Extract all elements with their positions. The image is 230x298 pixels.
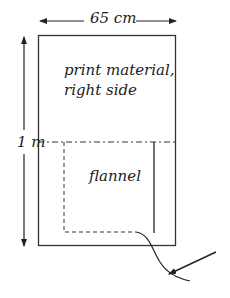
outer-panel-label-line2: right side [64, 80, 175, 100]
width-dimension-label: 65 cm [90, 10, 136, 26]
height-dimension-label: 1 m [17, 134, 46, 150]
thread-icon [136, 232, 190, 281]
inner-panel-label: flannel [89, 168, 141, 184]
needle-icon [169, 252, 216, 274]
flannel-outline [64, 142, 136, 232]
outer-panel-label: print material, right side [64, 60, 175, 100]
outer-panel-label-line1: print material, [64, 60, 175, 80]
